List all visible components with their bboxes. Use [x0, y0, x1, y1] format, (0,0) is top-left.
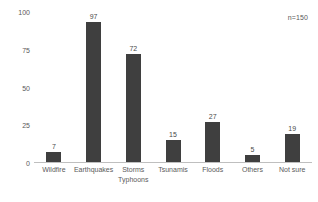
bar-group[interactable]: 19 [272, 12, 312, 163]
x-tick-label-line: Typhoons [113, 175, 153, 185]
bar-group[interactable]: 5 [233, 12, 273, 163]
x-tick-label: Others [233, 165, 273, 184]
x-tick-label: Wildfire [34, 165, 74, 184]
bar-value-label: 19 [288, 124, 296, 133]
bar-value-label: 7 [52, 142, 56, 151]
x-axis: WildfireEarthquakesStormsTyphoonsTsunami… [34, 165, 312, 184]
y-axis: 0255075100 [0, 12, 34, 163]
plot-area: 797721527519 [34, 12, 312, 163]
bar-group[interactable]: 27 [193, 12, 233, 163]
bars-layer: 797721527519 [34, 12, 312, 163]
bar-group[interactable]: 7 [34, 12, 74, 163]
bar[interactable] [166, 140, 181, 163]
bar-group[interactable]: 15 [153, 12, 193, 163]
x-tick-label: StormsTyphoons [113, 165, 153, 184]
x-tick-label-line: Storms [113, 165, 153, 175]
y-tick-label: 75 [22, 46, 30, 53]
axis-baseline [34, 162, 312, 163]
x-tick-label: Tsunamis [153, 165, 193, 184]
x-tick-label-line: Wildfire [34, 165, 74, 175]
y-tick-label: 100 [18, 9, 30, 16]
x-tick-label-line: Others [233, 165, 273, 175]
bar-chart-figure: n=150 0255075100 797721527519 WildfireEa… [0, 0, 318, 202]
bar[interactable] [126, 54, 141, 163]
x-tick-label-line: Earthquakes [74, 165, 114, 175]
y-tick-label: 50 [22, 84, 30, 91]
x-tick-label-line: Floods [193, 165, 233, 175]
x-tick-label: Not sure [272, 165, 312, 184]
bar-group[interactable]: 72 [113, 12, 153, 163]
bar[interactable] [86, 22, 101, 163]
bar[interactable] [205, 122, 220, 163]
x-tick-label: Floods [193, 165, 233, 184]
bar-value-label: 27 [209, 112, 217, 121]
y-tick-label: 25 [22, 122, 30, 129]
bar-group[interactable]: 97 [74, 12, 114, 163]
x-tick-label-line: Not sure [272, 165, 312, 175]
bar-value-label: 97 [90, 12, 98, 21]
x-tick-label: Earthquakes [74, 165, 114, 184]
x-tick-label-line: Tsunamis [153, 165, 193, 175]
bar-value-label: 72 [129, 44, 137, 53]
bar[interactable] [285, 134, 300, 163]
y-tick-label: 0 [26, 160, 30, 167]
bar-value-label: 15 [169, 130, 177, 139]
bar-value-label: 5 [251, 145, 255, 154]
